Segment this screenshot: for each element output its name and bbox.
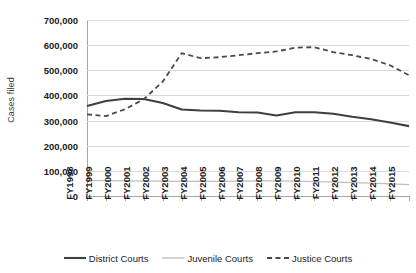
legend-item[interactable]: Justice Courts [267, 253, 352, 264]
legend-label: Juvenile Courts [187, 253, 252, 264]
y-axis-title-label: Cases filed [6, 77, 16, 123]
x-axis-tick-label: FY2008 [253, 167, 264, 236]
x-axis-tick-label: FY2012 [329, 167, 340, 236]
y-axis-tick-label: 300,000 [44, 115, 78, 126]
plot-area [87, 20, 409, 196]
x-axis-tick-label-text: FY1999 [83, 167, 94, 200]
x-axis-tick-label-text: FY2009 [272, 167, 283, 200]
legend-item[interactable]: Juvenile Courts [162, 253, 252, 264]
x-axis-tick-label-text: FY2010 [291, 167, 302, 200]
x-axis-tick-label-text: FY2002 [140, 167, 151, 200]
x-axis-tick-label: FY2003 [159, 167, 170, 236]
x-axis-tick-label-text: FY2005 [197, 167, 208, 200]
dashed-line-icon [267, 254, 289, 262]
x-axis-tick-label-text: FY2000 [102, 167, 113, 200]
x-axis-tick-label: FY2004 [178, 167, 189, 236]
legend-label: District Courts [89, 253, 149, 264]
x-axis-tick-label-text: FY2011 [310, 167, 321, 200]
x-axis-tick-label: FY2001 [121, 167, 132, 236]
x-axis-tick-label: FY1999 [83, 167, 94, 236]
y-axis-tick-label: 400,000 [44, 90, 78, 101]
x-axis-tick-label: FY2002 [140, 167, 151, 236]
x-axis-tick-label-text: FY2007 [234, 167, 245, 200]
y-axis-tick-label: 200,000 [44, 140, 78, 151]
series-lines [87, 20, 409, 196]
x-axis-tick-label-text: FY2006 [216, 167, 227, 200]
y-axis-tick-label: 700,000 [44, 15, 78, 26]
x-axis-tick-label-text: FY2014 [367, 167, 378, 200]
x-axis-tick-label: FY1998 [64, 167, 75, 236]
x-axis-tick-labels: FY1998FY1999FY2000FY2001FY2002FY2003FY20… [87, 201, 409, 247]
x-axis-tick-label: FY2005 [197, 167, 208, 236]
y-axis-tick-label: 500,000 [44, 65, 78, 76]
x-axis-tick-label-text: FY2013 [348, 167, 359, 200]
line-chart: Cases filed 700,000600,000500,000400,000… [0, 0, 416, 273]
x-axis-tick-label-text: FY2012 [329, 167, 340, 200]
x-axis-tick-label: FY2011 [310, 167, 321, 236]
light-line-icon [162, 254, 184, 262]
x-axis-tick-label: FY2010 [291, 167, 302, 236]
x-axis-tick-label: FY2007 [234, 167, 245, 236]
x-axis-tick-label: FY2015 [386, 167, 397, 236]
series-line [87, 180, 409, 184]
x-axis-tick-label: FY2009 [272, 167, 283, 236]
x-axis-tick-label: FY2006 [216, 167, 227, 236]
x-axis-tick-label-text: FY2001 [121, 167, 132, 200]
chart-legend: District CourtsJuvenile CourtsJustice Co… [0, 248, 416, 268]
x-axis-tick-label-text: FY1998 [64, 167, 75, 200]
x-axis-tick-label-text: FY2008 [253, 167, 264, 200]
legend-item[interactable]: District Courts [64, 253, 149, 264]
x-axis-tick-label-text: FY2015 [386, 167, 397, 200]
x-axis-tick-label: FY2013 [348, 167, 359, 236]
y-axis-tick-label: 600,000 [44, 40, 78, 51]
x-axis-tick-label: FY2000 [102, 167, 113, 236]
x-axis-tick-label-text: FY2004 [178, 167, 189, 200]
x-axis-tick-label-text: FY2003 [159, 167, 170, 200]
x-axis-tick-label: FY2014 [367, 167, 378, 236]
legend-label: Justice Courts [292, 253, 352, 264]
series-line [87, 47, 409, 116]
solid-line-icon [64, 254, 86, 262]
x-axis-tick [409, 196, 410, 201]
